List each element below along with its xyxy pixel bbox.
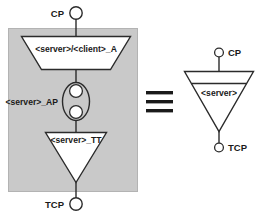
port-cp-left-circle[interactable]: [70, 7, 82, 19]
left-composite-group: CP <server>/<client>_A <server>_AP <serv…: [5, 7, 137, 210]
port-cp-right-circle[interactable]: [215, 48, 224, 57]
node-server-shape[interactable]: [185, 72, 254, 132]
node-tt-label: <server>_TT: [50, 135, 102, 145]
port-cp-right-label: CP: [228, 47, 242, 58]
port-tcp-left-label: TCP: [45, 199, 65, 210]
port-cp-left-label: CP: [51, 8, 65, 19]
node-server-label: <server>: [201, 88, 237, 98]
component-equivalence-diagram: CP <server>/<client>_A <server>_AP <serv…: [0, 0, 264, 219]
node-ap-inner-circle-bottom: [70, 106, 83, 119]
port-tcp-right-circle[interactable]: [215, 143, 224, 152]
diagram-canvas: CP <server>/<client>_A <server>_AP <serv…: [0, 0, 264, 219]
equivalence-bar-bottom: [146, 109, 173, 112]
node-ap-label: <server>_AP: [5, 97, 58, 107]
right-component-group: CP <server> TCP: [185, 47, 254, 153]
equivalence-bar-middle: [146, 100, 173, 103]
equivalence-bar-top: [146, 91, 173, 94]
port-tcp-right-label: TCP: [228, 142, 248, 153]
equivalence-symbol: [146, 91, 173, 112]
node-a-label: <server>/<client>_A: [35, 44, 117, 54]
port-tcp-left-circle[interactable]: [70, 198, 82, 210]
node-ap-inner-circle-top: [70, 85, 83, 98]
